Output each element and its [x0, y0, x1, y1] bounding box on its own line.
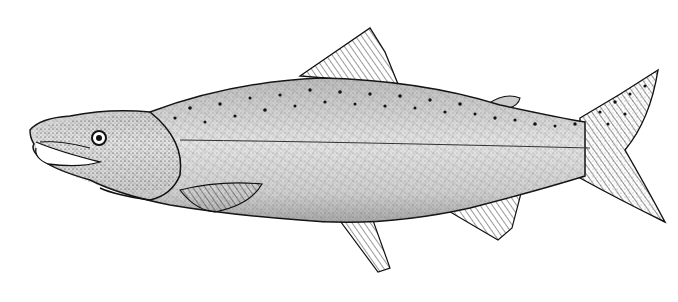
salmon-illustration — [0, 0, 678, 302]
illustration-canvas: Stipple drawing of a salmon facing left … — [0, 0, 678, 302]
dorsal-fin — [300, 28, 398, 84]
